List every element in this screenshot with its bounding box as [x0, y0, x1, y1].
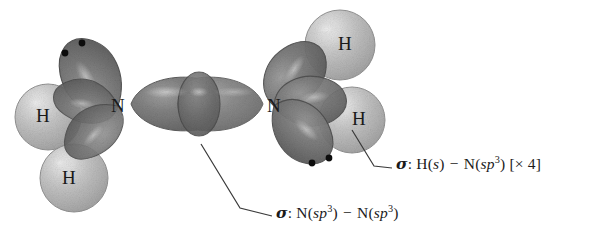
nn-overlap-region	[178, 72, 220, 136]
caption-sigma-hn: σ: H(s) − N(sp3) [× 4]	[396, 155, 541, 172]
caption-colon-hn: :	[408, 155, 413, 172]
atom-label-hydrogen-left-lower: H	[62, 168, 76, 187]
atom-label-nitrogen-right: N	[267, 96, 281, 115]
caption-minus-nn: −	[342, 204, 353, 221]
sigma-bond-nn-orbital	[131, 72, 263, 136]
caption-sigma-nn: σ: N(sp3) − N(sp3)	[276, 204, 399, 221]
orbital-diagram-figure: N N H H H H σ: N(sp3) − N(sp3) σ: H(s) −…	[0, 0, 601, 244]
caption-right-orbital-hn: sp	[481, 155, 495, 172]
caption-left-orbital-nn: sp	[313, 204, 327, 221]
atom-label-nitrogen-left: N	[111, 96, 125, 115]
caption-right-sup-nn: 3	[388, 203, 393, 214]
caption-left-sup-nn: 3	[327, 203, 332, 214]
atom-label-hydrogen-left-upper: H	[36, 106, 50, 125]
caption-minus-hn: −	[449, 155, 460, 172]
caption-multiplicity-hn: [× 4]	[509, 155, 541, 172]
left-nitrogen-group	[15, 27, 140, 212]
caption-left-atom-nn: N	[296, 204, 307, 221]
caption-left-atom-hn: H	[416, 155, 427, 172]
atom-label-hydrogen-right-lower: H	[352, 109, 366, 128]
caption-right-sup-hn: 3	[495, 154, 500, 165]
sigma-symbol-hn: σ	[396, 154, 408, 173]
caption-right-orbital-nn: sp	[374, 204, 388, 221]
caption-left-orbital-hn: s	[433, 155, 439, 172]
caption-right-atom-nn: N	[357, 204, 368, 221]
caption-colon-nn: :	[288, 204, 293, 221]
sigma-symbol-nn: σ	[276, 203, 288, 222]
caption-right-atom-hn: N	[464, 155, 475, 172]
atom-label-hydrogen-right-upper: H	[338, 34, 352, 53]
leader-line-sigma-nn	[201, 144, 272, 216]
